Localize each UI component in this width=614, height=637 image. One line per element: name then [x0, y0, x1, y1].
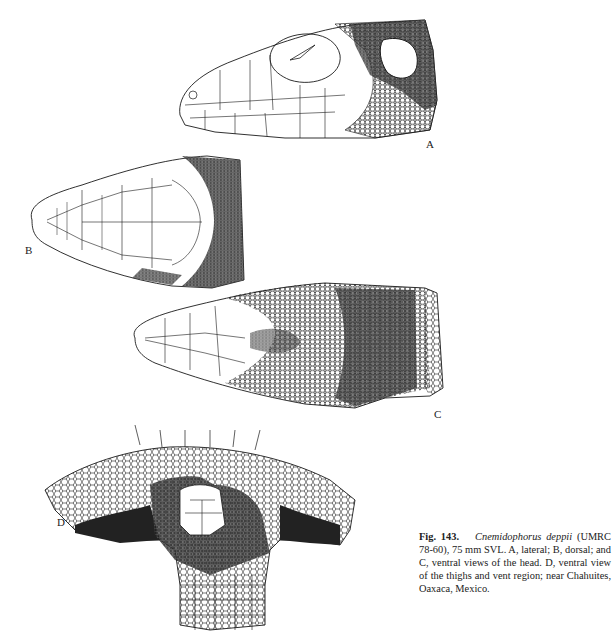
panel-d-thighs-vent-illustration: [40, 425, 370, 635]
panel-label-a: A: [426, 138, 434, 150]
panel-label-b: B: [25, 244, 32, 256]
species-name: Cnemidophorus deppii: [475, 531, 572, 542]
panel-a-lateral-head-illustration: [175, 10, 445, 140]
figure-caption: Fig. 143.Cnemidophorus deppii (UMRC 78-6…: [419, 530, 611, 595]
panel-b-dorsal-head-illustration: [22, 150, 247, 290]
panel-c-ventral-head-illustration: [125, 278, 450, 418]
panel-label-d: D: [57, 516, 65, 528]
panel-label-c: C: [434, 408, 441, 420]
figure-number: Fig. 143.: [419, 531, 459, 542]
